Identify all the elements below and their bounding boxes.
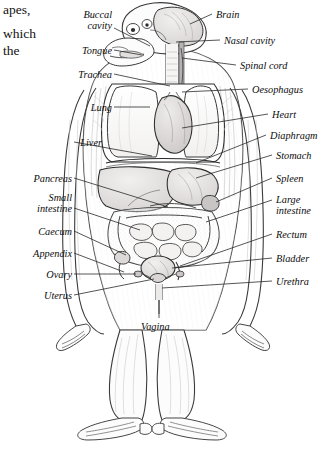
label-rectum: Rectum xyxy=(276,230,307,241)
body-text-line-1: apes, xyxy=(3,3,30,17)
label-brain: Brain xyxy=(216,10,239,21)
label-uterus: Uterus xyxy=(4,291,72,302)
label-small-intestine: Small intestine xyxy=(4,193,72,214)
label-buccal-cavity: Buccal cavity xyxy=(56,10,112,31)
figure-canvas: apes, which the Buccal cavity Tongue Tra… xyxy=(0,0,326,450)
label-liver: Liver xyxy=(30,138,102,149)
label-heart: Heart xyxy=(272,110,296,121)
label-appendix: Appendix xyxy=(4,249,72,260)
label-spinal-cord: Spinal cord xyxy=(240,61,287,72)
label-trachea: Trachea xyxy=(40,70,112,81)
abdominal-upper xyxy=(98,167,219,212)
label-spleen: Spleen xyxy=(276,174,303,185)
label-urethra: Urethra xyxy=(276,277,309,288)
label-large-intestine: Large intestine xyxy=(276,195,311,216)
label-caecum: Caecum xyxy=(4,227,72,238)
label-pancreas: Pancreas xyxy=(4,174,72,185)
label-diaphragm: Diaphragm xyxy=(270,131,317,142)
label-vagina: Vagina xyxy=(141,322,170,333)
legs xyxy=(78,330,227,440)
label-oesophagus: Oesophagus xyxy=(252,85,303,96)
label-nasal-cavity: Nasal cavity xyxy=(224,36,275,47)
label-bladder: Bladder xyxy=(276,254,309,265)
label-ovary: Ovary xyxy=(4,270,72,281)
label-tongue: Tongue xyxy=(52,46,112,57)
label-lung: Lung xyxy=(36,103,112,114)
label-stomach: Stomach xyxy=(276,151,311,162)
body-text-line-2: which xyxy=(3,27,36,41)
body-text-line-3: the xyxy=(3,44,20,58)
